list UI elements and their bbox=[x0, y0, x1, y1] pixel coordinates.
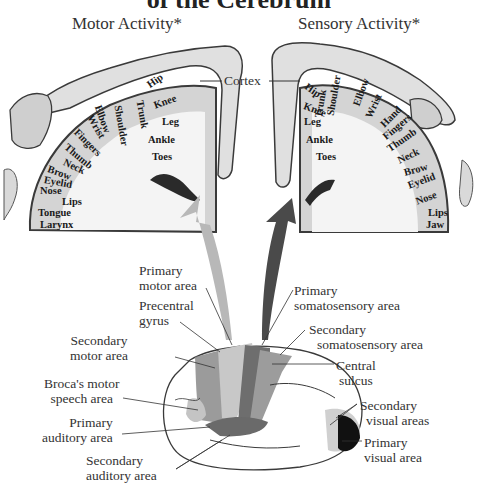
motor-toes-label: Toes bbox=[152, 151, 172, 162]
primary-visual-area-label: Primary visual area bbox=[364, 435, 422, 465]
motor-leg-label: Leg bbox=[162, 116, 179, 127]
primary-auditory-area-label: Primary auditory area bbox=[42, 415, 113, 445]
secondary-somatosensory-area-label: Secondary somatosensory area bbox=[309, 322, 423, 352]
central-sulcus-label: Central sulcus bbox=[336, 358, 376, 388]
brocas-area-label: Broca's motor speech area bbox=[44, 376, 120, 406]
primary-somatosensory-area-label: Primary somatosensory area bbox=[294, 283, 400, 313]
sensory-arrow bbox=[262, 198, 296, 340]
sensory-lips-label: Lips bbox=[428, 207, 448, 218]
secondary-auditory-area-label: Secondary auditory area bbox=[72, 453, 157, 483]
cortex-label: Cortex bbox=[224, 73, 261, 88]
sensory-homunculus-figure bbox=[272, 43, 473, 232]
sensory-jaw-label: Jaw bbox=[426, 219, 444, 230]
motor-nose-label: Nose bbox=[40, 185, 62, 196]
secondary-visual-areas-label: Secondary visual areas bbox=[360, 398, 429, 428]
motor-tongue-label: Tongue bbox=[38, 207, 71, 218]
precentral-gyrus-label: Precentral gyrus bbox=[139, 298, 194, 328]
motor-ankle-label: Ankle bbox=[148, 134, 175, 145]
motor-lips-label: Lips bbox=[62, 196, 82, 207]
motor-larynx-label: Larynx bbox=[40, 219, 73, 230]
secondary-motor-area-label: Secondary motor area bbox=[70, 333, 128, 363]
primary-motor-area-label: Primary motor area bbox=[139, 263, 197, 293]
sensory-toes-label: Toes bbox=[316, 151, 336, 162]
sensory-ankle-label: Ankle bbox=[306, 134, 333, 145]
